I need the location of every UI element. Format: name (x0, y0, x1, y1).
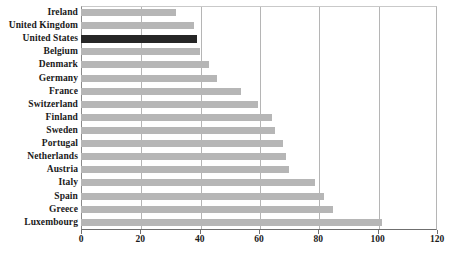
y-axis-label-france: France (0, 85, 78, 98)
y-axis-label-denmark: Denmark (0, 58, 78, 71)
y-axis-label-greece: Greece (0, 203, 78, 216)
x-tick-label-40: 40 (195, 234, 205, 244)
chart-title (0, 0, 457, 2)
chart-row (81, 163, 437, 176)
bar-denmark (81, 61, 209, 68)
x-tick-label-100: 100 (371, 234, 385, 244)
x-tick-label-120: 120 (430, 234, 444, 244)
y-axis-label-germany: Germany (0, 72, 78, 85)
chart-row (81, 58, 437, 71)
bar-italy (81, 179, 315, 186)
bar-spain (81, 193, 324, 200)
x-tick-label-20: 20 (136, 234, 146, 244)
y-axis-label-italy: Italy (0, 176, 78, 189)
bar-austria (81, 166, 289, 173)
x-tick-label-60: 60 (254, 234, 264, 244)
y-axis-label-ireland: Ireland (0, 6, 78, 19)
chart-row (81, 85, 437, 98)
chart-row (81, 45, 437, 58)
chart-row (81, 72, 437, 85)
bar-switzerland (81, 101, 258, 108)
chart-row (81, 216, 437, 229)
bar-netherlands (81, 153, 286, 160)
x-tick-label-0: 0 (79, 234, 84, 244)
y-axis-label-spain: Spain (0, 190, 78, 203)
y-axis-label-switzerland: Switzerland (0, 98, 78, 111)
y-axis-label-sweden: Sweden (0, 124, 78, 137)
bar-ireland (81, 9, 176, 16)
chart-row (81, 6, 437, 19)
y-axis-label-luxembourg: Luxembourg (0, 216, 78, 229)
bar-portugal (81, 140, 283, 147)
chart-row (81, 176, 437, 189)
chart-row (81, 111, 437, 124)
chart-row (81, 137, 437, 150)
y-axis-category-labels: IrelandUnited KingdomUnited StatesBelgiu… (0, 6, 78, 229)
y-axis-label-united-states: United States (0, 32, 78, 45)
bar-finland (81, 114, 272, 121)
chart-row (81, 203, 437, 216)
bar-france (81, 88, 241, 95)
bar-chart: IrelandUnited KingdomUnited StatesBelgiu… (0, 0, 457, 254)
bar-luxembourg (81, 219, 382, 226)
chart-row (81, 190, 437, 203)
bar-sweden (81, 127, 275, 134)
y-axis-label-portugal: Portugal (0, 137, 78, 150)
chart-row (81, 150, 437, 163)
x-tick-label-80: 80 (314, 234, 324, 244)
chart-row (81, 124, 437, 137)
bar-greece (81, 206, 333, 213)
bar-united-states (81, 35, 197, 43)
y-axis-label-finland: Finland (0, 111, 78, 124)
chart-row (81, 98, 437, 111)
bar-united-kingdom (81, 22, 194, 29)
y-axis-label-united-kingdom: United Kingdom (0, 19, 78, 32)
bar-germany (81, 75, 217, 82)
y-axis-label-austria: Austria (0, 163, 78, 176)
y-axis-label-belgium: Belgium (0, 45, 78, 58)
bar-belgium (81, 48, 200, 55)
y-axis-label-netherlands: Netherlands (0, 150, 78, 163)
chart-row (81, 32, 437, 45)
bar-series (81, 6, 437, 229)
chart-row (81, 19, 437, 32)
